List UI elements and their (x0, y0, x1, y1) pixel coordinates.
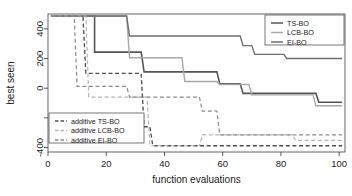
y-tick-label: -400 (35, 138, 46, 157)
y-tick-label: 400 (35, 21, 46, 37)
chart-container: 0204060801004002000-400function evaluati… (0, 0, 352, 196)
legend-top-right: TS-BOLCB-BOEI-BO (265, 15, 344, 47)
x-tick-label: 100 (331, 158, 347, 169)
x-tick-label: 0 (45, 158, 50, 169)
x-tick-label: 40 (159, 158, 170, 169)
legend-bottom-left-label-1: additive LCB-BO (71, 126, 125, 135)
legend-top-right-label-0: TS-BO (287, 19, 309, 28)
legend-bottom-left-label-2: additive EI-BO (71, 136, 118, 145)
legend-bottom-left-label-0: additive TS-BO (71, 117, 120, 126)
x-tick-label: 80 (276, 158, 287, 169)
legend-top-right-label-2: EI-BO (287, 38, 307, 47)
y-tick-label: 200 (35, 51, 46, 67)
x-tick-label: 20 (101, 158, 112, 169)
y-tick-label: 0 (35, 86, 46, 91)
x-tick-label: 60 (217, 158, 228, 169)
x-axis-title: function evaluations (152, 174, 240, 185)
line-chart: 0204060801004002000-400function evaluati… (0, 0, 352, 196)
legend-top-right-label-1: LCB-BO (287, 28, 314, 37)
y-axis-title: best seen (5, 61, 16, 104)
legend-bottom-left: additive TS-BOadditive LCB-BOadditive EI… (49, 113, 144, 145)
